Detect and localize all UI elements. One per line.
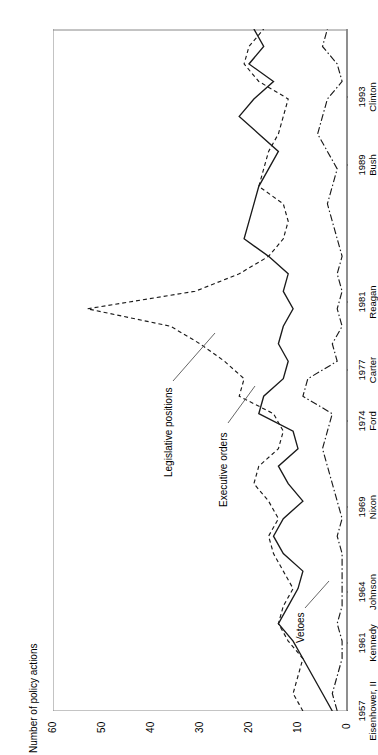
x-tick-year-1957: 1957 — [356, 681, 367, 741]
x-tick-1993: 1993 Clinton — [356, 82, 378, 112]
series-line-vetoes — [303, 29, 342, 711]
annotation-executive-orders: Executive orders — [218, 433, 229, 507]
x-tick-1989: 1989 Bush — [356, 154, 378, 176]
y-tick-label-30: 30 — [194, 722, 205, 733]
y-axis-title: Number of policy actions — [28, 644, 39, 754]
x-tick-president-ford: Ford — [367, 410, 378, 431]
x-tick-president-reagan: Reagan — [367, 285, 378, 318]
x-tick-year-1993: 1993 — [356, 82, 367, 112]
y-tick-label-40: 40 — [145, 722, 156, 733]
x-tick-1961: 1961 Kennedy — [356, 624, 378, 662]
y-tick-label-50: 50 — [96, 722, 107, 733]
y-tick-label-0: 0 — [341, 723, 352, 729]
x-tick-1957: 1957 Eisenhower, II — [356, 681, 378, 741]
x-tick-year-1969: 1969 — [356, 495, 367, 519]
x-tick-year-1974: 1974 — [356, 410, 367, 431]
x-tick-president-clinton: Clinton — [367, 82, 378, 112]
annotation-leader-lines — [173, 333, 329, 608]
x-tick-1964: 1964 Johnson — [356, 574, 378, 610]
x-tick-president-nixon: Nixon — [367, 495, 378, 519]
leader-line-legislative-positions — [173, 333, 215, 381]
x-tick-year-1961: 1961 — [356, 624, 367, 662]
leader-line-executive-orders — [228, 386, 255, 423]
x-tick-president-johnson: Johnson — [367, 574, 378, 610]
series-line-legislative-positions — [87, 29, 303, 711]
chart-svg — [53, 29, 348, 711]
x-tick-1977: 1977 Carter — [356, 357, 378, 383]
annotation-vetoes: Vetoes — [295, 612, 306, 643]
x-tick-1981: 1981 Reagan — [356, 285, 378, 318]
y-tick-label-10: 10 — [292, 722, 303, 733]
x-tick-president-eisenhower: Eisenhower, II — [367, 681, 378, 741]
x-tick-president-bush: Bush — [367, 154, 378, 176]
x-tick-1969: 1969 Nixon — [356, 495, 378, 519]
axes-frame — [53, 29, 347, 711]
y-tick-label-20: 20 — [243, 722, 254, 733]
x-tick-year-1981: 1981 — [356, 285, 367, 318]
x-tick-president-carter: Carter — [367, 357, 378, 383]
y-tick-label-60: 60 — [47, 722, 58, 733]
plot-area: Legislative positions Executive orders V… — [53, 29, 348, 711]
x-tick-year-1989: 1989 — [356, 154, 367, 176]
annotation-legislative-positions: Legislative positions — [163, 388, 174, 478]
x-tick-year-1964: 1964 — [356, 574, 367, 610]
x-tick-1974: 1974 Ford — [356, 410, 378, 431]
x-tick-president-kennedy: Kennedy — [367, 624, 378, 662]
x-tick-year-1977: 1977 — [356, 357, 367, 383]
leader-line-vetoes — [305, 581, 329, 608]
